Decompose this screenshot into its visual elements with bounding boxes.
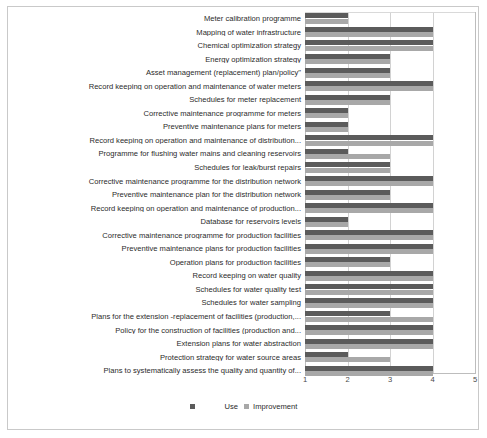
bar-use <box>305 352 348 357</box>
legend-swatch-use-icon <box>190 404 195 409</box>
chart-row: Record keeping on operation and maintena… <box>10 80 477 94</box>
horizontal-bar-chart: Meter calibration programmeMapping of wa… <box>0 0 487 438</box>
chart-row: Corrective maintenance programme for met… <box>10 107 477 121</box>
legend-label-improvement: Improvement <box>253 402 297 411</box>
chart-row: Corrective maintenance programme for the… <box>10 175 477 189</box>
bar-use <box>305 13 348 18</box>
bar-use <box>305 27 433 32</box>
bar-improvement <box>305 330 433 335</box>
chart-legend: Use Improvement <box>0 402 487 411</box>
bar-use <box>305 108 348 113</box>
bar-use <box>305 325 433 330</box>
bar-improvement <box>305 32 433 37</box>
bar-track <box>305 120 475 134</box>
bar-use <box>305 284 433 289</box>
chart-row: Record keeping on operation and maintena… <box>10 134 477 148</box>
category-label: Record keeping on operation and maintena… <box>10 137 305 145</box>
chart-row: Schedules for water quality test <box>10 283 477 297</box>
legend-label-use: Use <box>225 402 239 411</box>
category-label: Asset management (replacement) plan/poli… <box>10 69 305 77</box>
bar-track <box>305 337 475 351</box>
category-label: Database for reservoirs levels <box>10 218 305 226</box>
chart-row: Schedules for leak/burst repairs <box>10 161 477 175</box>
bar-improvement <box>305 344 433 349</box>
bar-improvement <box>305 19 348 24</box>
bar-use <box>305 68 390 73</box>
bar-track <box>305 53 475 67</box>
bar-track <box>305 351 475 365</box>
bar-use <box>305 122 348 127</box>
bar-improvement <box>305 303 433 308</box>
bar-track <box>305 256 475 270</box>
bar-track <box>305 310 475 324</box>
bar-improvement <box>305 127 348 132</box>
chart-row: Corrective maintenance programme for pro… <box>10 229 477 243</box>
bar-use <box>305 217 348 222</box>
category-label: Policy for the construction of facilitie… <box>10 327 305 335</box>
x-axis-ticks: 12345 <box>305 376 475 388</box>
category-label: Record keeping on water quality <box>10 272 305 280</box>
chart-row: Meter calibration programme <box>10 12 477 26</box>
bar-use <box>305 257 390 262</box>
bar-track <box>305 93 475 107</box>
chart-row: Mapping of water infrastructure <box>10 26 477 40</box>
chart-row: Chemical optimization strategy <box>10 39 477 53</box>
bar-track <box>305 26 475 40</box>
category-label: Energy optimization strategy <box>10 56 305 64</box>
chart-row: Schedules for water sampling <box>10 296 477 310</box>
chart-row: Database for reservoirs levels <box>10 215 477 229</box>
category-label: Operation plans for production facilitie… <box>10 259 305 267</box>
category-label: Meter calibration programme <box>10 15 305 23</box>
bar-track <box>305 80 475 94</box>
chart-row: Preventive maintenance plan for the dist… <box>10 188 477 202</box>
bar-track <box>305 202 475 216</box>
x-tick-label-2: 2 <box>345 376 349 384</box>
category-label: Corrective maintenance programme for met… <box>10 110 305 118</box>
chart-row: Programme for flushing water mains and c… <box>10 147 477 161</box>
x-tick-label-5: 5 <box>473 376 477 384</box>
category-label: Programme for flushing water mains and c… <box>10 150 305 158</box>
bar-use <box>305 244 433 249</box>
category-label: Protection strategy for water source are… <box>10 354 305 362</box>
bar-use <box>305 311 390 316</box>
bar-improvement <box>305 276 433 281</box>
category-label: Schedules for leak/burst repairs <box>10 164 305 172</box>
chart-row: Record keeping on water quality <box>10 269 477 283</box>
legend-item-use: Use <box>190 402 239 411</box>
bar-use <box>305 162 390 167</box>
category-label: Preventive maintenance plan for the dist… <box>10 191 305 199</box>
bar-improvement <box>305 262 390 267</box>
bar-use <box>305 81 433 86</box>
bar-improvement <box>305 73 390 78</box>
bar-improvement <box>305 46 433 51</box>
bar-use <box>305 298 433 303</box>
category-label: Mapping of water infrastructure <box>10 29 305 37</box>
legend-swatch-improvement-icon <box>244 404 249 409</box>
bar-track <box>305 242 475 256</box>
bar-track <box>305 188 475 202</box>
chart-row: Extension plans for water abstraction <box>10 337 477 351</box>
bar-improvement <box>305 100 390 105</box>
bar-improvement <box>305 59 390 64</box>
bar-improvement <box>305 181 433 186</box>
bar-use <box>305 271 433 276</box>
x-tick-label-1: 1 <box>303 376 307 384</box>
category-label: Plans for the extension -replacement of … <box>10 313 305 321</box>
bar-track <box>305 296 475 310</box>
bar-improvement <box>305 249 433 254</box>
bar-track <box>305 134 475 148</box>
bar-use <box>305 203 433 208</box>
chart-row: Policy for the construction of facilitie… <box>10 324 477 338</box>
chart-row: Protection strategy for water source are… <box>10 351 477 365</box>
bar-track <box>305 147 475 161</box>
x-tick-label-3: 3 <box>388 376 392 384</box>
bar-use <box>305 149 348 154</box>
bar-track <box>305 12 475 26</box>
category-label: Preventive maintenance plans for product… <box>10 245 305 253</box>
bar-improvement <box>305 168 390 173</box>
chart-row: Preventive maintenance plans for meters <box>10 120 477 134</box>
category-label: Corrective maintenance programme for pro… <box>10 232 305 240</box>
bar-improvement <box>305 235 433 240</box>
bar-improvement <box>305 141 433 146</box>
bar-improvement <box>305 222 348 227</box>
